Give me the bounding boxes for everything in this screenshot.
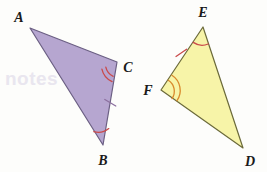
figure-canvas: notes A B C [0, 0, 267, 172]
geometry-figure: A B C E D F [0, 0, 267, 172]
vertex-label-f: F [142, 83, 153, 98]
triangle-abc-shape [30, 28, 117, 145]
vertex-label-c: C [123, 60, 133, 75]
vertex-label-d: D [244, 154, 255, 169]
vertex-label-e: E [197, 5, 207, 20]
triangle-def-group: E D F [142, 5, 255, 169]
vertex-label-a: A [13, 10, 23, 25]
triangle-abc-group: A B C [13, 10, 133, 168]
vertex-label-b: B [97, 153, 107, 168]
